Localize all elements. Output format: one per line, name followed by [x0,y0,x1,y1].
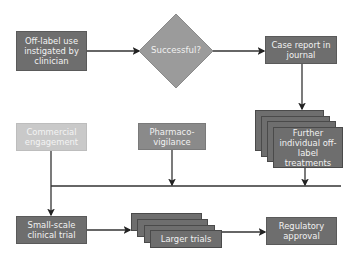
node-label: Case report in journal [269,40,333,60]
node-label: Successful? [151,45,201,55]
node-regulatory-approval: Regulatory approval [266,217,337,245]
node-offlabel-use: Off-label use instigated by clinician [16,31,87,71]
node-small-scale-trial: Small-scale clinical trial [16,216,87,244]
node-pharmacovigilance: Pharmaco-vigilance [138,123,206,150]
node-commercial-engagement: Commercial engagement [16,123,87,151]
node-label: Regulatory approval [270,221,333,241]
node-larger-trials: Larger trials [150,230,222,248]
node-label: Small-scale clinical trial [20,220,83,240]
node-label: Larger trials [161,234,212,244]
node-label: Commercial engagement [20,127,83,147]
node-label: Pharmaco-vigilance [142,127,202,147]
node-label: Further individual off-label treatments [277,128,339,168]
node-successful: Successful? [139,45,213,55]
node-further-treatments: Further individual off-label treatments [273,127,343,168]
node-label: Off-label use instigated by clinician [20,36,83,66]
node-case-report: Case report in journal [265,36,337,64]
